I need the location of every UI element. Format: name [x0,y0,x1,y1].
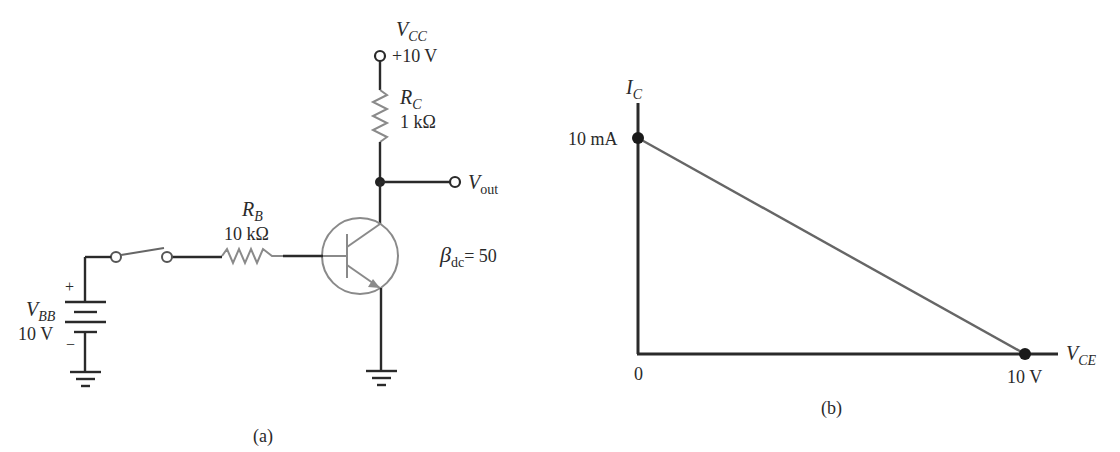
load-line-graph: IC 10 mA VCE 10 V 0 (b) [568,76,1097,419]
npn-transistor [322,218,398,294]
beta-label: βdc= 50 [439,242,497,270]
ground-icon [366,371,397,385]
caption-b: (b) [821,398,842,419]
ic-sat-point [632,132,644,144]
caption-a: (a) [253,426,273,447]
ground-icon [70,372,101,386]
vcc-value: +10 V [392,46,437,66]
figure: VCC +10 V RC 1 kΩ Vout [0,0,1120,452]
ic-axis-label: IC [625,76,643,102]
x-point-label: 10 V [1007,367,1042,387]
vout-label: Vout [468,171,498,197]
rc-value: 1 kΩ [400,112,436,132]
rc-label: RC [399,86,422,112]
rb-label: RB [241,198,263,224]
vce-axis-label: VCE [1066,342,1097,368]
vbb-label: VBB [26,298,56,324]
switch [111,248,172,262]
rb-value: 10 kΩ [224,224,269,244]
load-line [638,138,1025,354]
battery-icon [65,302,106,332]
vcc-label: VCC [396,18,428,44]
vce-cutoff-point [1019,348,1031,360]
origin-label: 0 [634,364,643,384]
vbb-plus: + [65,278,74,295]
vbb-minus: − [66,336,75,353]
rb-resistor [222,249,283,263]
circuit-diagram: VCC +10 V RC 1 kΩ Vout [18,18,498,447]
vout-terminal [450,177,460,187]
vcc-terminal [375,51,385,61]
y-point-label: 10 mA [568,129,618,149]
rc-resistor [373,90,387,142]
vbb-value: 10 V [18,324,53,344]
